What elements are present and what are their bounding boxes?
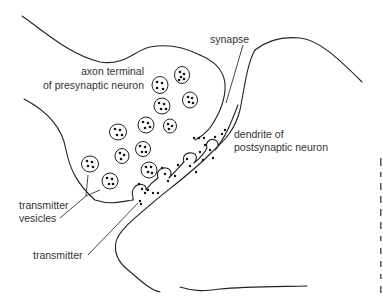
synapse-leader-line — [226, 45, 243, 103]
synapse-label: synapse — [210, 33, 249, 45]
dendrite-label-line2: postsynaptic neuron — [234, 141, 328, 153]
axon-terminal-right-outline — [195, 55, 225, 140]
axon-terminal-upper-outline — [22, 16, 200, 63]
dendrite-bottom-edge — [180, 286, 307, 291]
axon-terminal-label-line1: axon terminal — [81, 65, 144, 77]
axon-terminal-label-line2: of presynaptic neuron — [43, 79, 144, 91]
vesicles-leader-line — [60, 175, 100, 218]
clipped-caption-edge — [380, 158, 382, 293]
dendrite-outline — [255, 38, 362, 82]
vesicles-label-line1: transmitter — [19, 199, 69, 211]
vesicles-label-line2: vesicles — [19, 212, 56, 224]
synapse-diagram: axon terminal of presynaptic neuron syna… — [0, 0, 383, 303]
dendrite-label-line1: dendrite of — [234, 128, 284, 140]
transmitter-leader-line — [88, 203, 138, 255]
transmitter-label: transmitter — [33, 249, 83, 261]
